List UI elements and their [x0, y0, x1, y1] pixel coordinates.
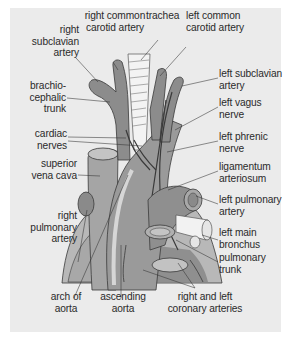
label-right-common-carotid-artery: right common carotid artery: [80, 10, 150, 33]
label-arch-of-aorta: arch of aorta: [38, 291, 94, 314]
label-pulmonary-trunk: pulmonary trunk: [219, 252, 289, 275]
label-right-subclavian-artery: right subclavian artery: [14, 24, 79, 59]
label-left-common-carotid-artery: left common carotid artery: [186, 10, 276, 33]
label-left-vagus-nerve: left vagus nerve: [219, 97, 289, 120]
label-right-pulmonary-artery: right pulmonary artery: [14, 210, 77, 245]
label-ascending-aorta: ascending aorta: [95, 291, 151, 314]
label-left-phrenic-nerve: left phrenic nerve: [219, 131, 289, 154]
label-left-pulmonary-artery: left pulmonary artery: [219, 194, 289, 217]
label-right-and-left-coronary-arteries: right and left coronary arteries: [160, 291, 250, 314]
label-left-main-bronchus: left main bronchus: [219, 227, 289, 250]
label-left-subclavian-artery: left subclavian artery: [219, 68, 289, 91]
right-pulmonary-artery: [78, 192, 94, 216]
label-trachea: trachea: [146, 10, 186, 22]
label-superior-vena-cava: superior vena cava: [14, 158, 77, 181]
label-cardiac-nerves: cardiac nerves: [14, 128, 67, 151]
label-brachiocephalic-trunk: brachio- cephalic trunk: [14, 80, 66, 115]
label-ligamentum-arteriosum: ligamentum arteriosum: [219, 161, 289, 184]
